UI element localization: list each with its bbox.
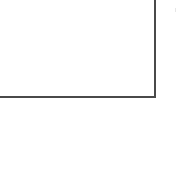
- bordered-rectangle-corner: [0, 0, 156, 98]
- faint-mark: [175, 8, 176, 12]
- blank-canvas: [0, 0, 177, 180]
